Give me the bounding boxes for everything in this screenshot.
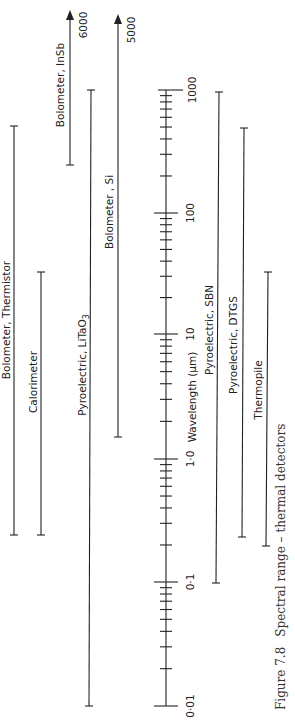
range-thermopile: Thermopile	[252, 272, 272, 546]
figure-caption: Figure 7.8Spectral range – thermal detec…	[274, 424, 288, 710]
label-pyroelectric-sbn: Pyroelectric, SBN	[203, 285, 215, 375]
tick-label-1000: 1000	[186, 77, 198, 104]
caption-text: Figure 7.8Spectral range – thermal detec…	[274, 424, 288, 710]
label-insb-max: 6000	[77, 12, 89, 39]
label-bolometer-si: Bolometer , Si	[103, 175, 115, 249]
range-pyroelectric-dtgs: Pyroelectric, DTGS	[227, 128, 248, 537]
wavelength-axis	[154, 90, 183, 706]
tick-labels: 0·01 0·1 1·0 10 100 1000 Wavelength (µm)	[184, 77, 198, 718]
arrow-up-icon	[66, 10, 74, 20]
tick-label-0.01: 0·01	[184, 694, 196, 717]
range-bolometer-thermistor: Bolometer, Thermistor	[0, 126, 18, 535]
label-bolometer-insb: Bolometer, InSb	[54, 43, 66, 128]
tick-label-100: 100	[184, 203, 196, 223]
label-pyroelectric-litao3: Pyroelectric, LiTaO3	[76, 314, 91, 416]
range-bolometer-si: Bolometer , Si 5000	[103, 14, 137, 437]
label-bolometer-thermistor: Bolometer, Thermistor	[0, 260, 12, 379]
range-pyroelectric-litao3: Pyroelectric, LiTaO3	[76, 90, 95, 706]
range-calorimeter: Calorimeter	[27, 272, 45, 535]
range-pyroelectric-sbn: Pyroelectric, SBN	[203, 92, 223, 583]
tick-label-0.1: 0·1	[184, 574, 196, 591]
range-bolometer-insb: Bolometer, InSb 6000	[54, 10, 89, 165]
axis-title: Wavelength (µm)	[186, 352, 198, 443]
arrow-up-icon	[114, 14, 122, 24]
label-pyroelectric-dtgs: Pyroelectric, DTGS	[227, 296, 239, 394]
spectral-range-chart: 0·01 0·1 1·0 10 100 1000 Wavelength (µm)…	[0, 0, 295, 720]
label-calorimeter: Calorimeter	[27, 350, 39, 413]
tick-label-10: 10	[184, 327, 196, 340]
tick-label-1.0: 1·0	[184, 451, 196, 468]
label-thermopile: Thermopile	[252, 360, 264, 420]
label-si-max: 5000	[125, 17, 137, 44]
